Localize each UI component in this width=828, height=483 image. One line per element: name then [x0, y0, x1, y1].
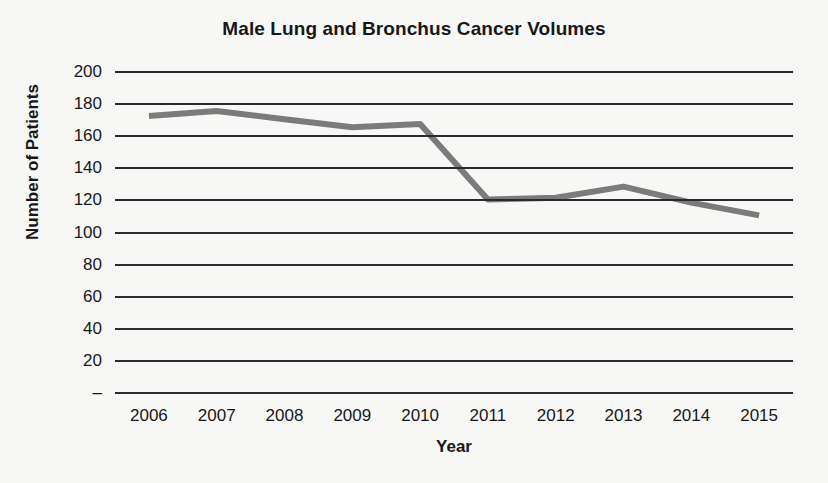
y-tick-label: 40 [40, 320, 102, 337]
x-tick-label: 2007 [182, 406, 252, 426]
gridline [115, 199, 793, 201]
y-tick-label: 80 [40, 256, 102, 273]
plot-area [115, 71, 793, 392]
chart-title: Male Lung and Bronchus Cancer Volumes [0, 18, 828, 40]
x-tick-label: 2015 [724, 406, 794, 426]
x-tick-label: 2006 [114, 406, 184, 426]
x-tick-label: 2013 [589, 406, 659, 426]
y-tick-label: 120 [40, 191, 102, 208]
y-tick-label: – [40, 384, 102, 401]
x-tick-label: 2014 [656, 406, 726, 426]
chart-figure: Male Lung and Bronchus Cancer Volumes Nu… [0, 0, 828, 483]
gridline [115, 392, 793, 394]
y-tick-label: 20 [40, 352, 102, 369]
y-tick-label: 160 [40, 127, 102, 144]
gridline [115, 296, 793, 298]
x-tick-label: 2010 [385, 406, 455, 426]
y-tick-label: 180 [40, 95, 102, 112]
y-tick-label: 140 [40, 159, 102, 176]
gridline [115, 103, 793, 105]
x-tick-label: 2011 [453, 406, 523, 426]
x-tick-label: 2009 [317, 406, 387, 426]
gridline [115, 360, 793, 362]
gridline [115, 232, 793, 234]
x-tick-label: 2012 [521, 406, 591, 426]
gridline [115, 135, 793, 137]
x-axis-title: Year [115, 437, 793, 457]
gridline [115, 167, 793, 169]
y-tick-label: 200 [40, 63, 102, 80]
y-tick-label: 100 [40, 224, 102, 241]
x-tick-label: 2008 [250, 406, 320, 426]
y-tick-label: 60 [40, 288, 102, 305]
gridline [115, 264, 793, 266]
gridline [115, 71, 793, 73]
gridline [115, 328, 793, 330]
